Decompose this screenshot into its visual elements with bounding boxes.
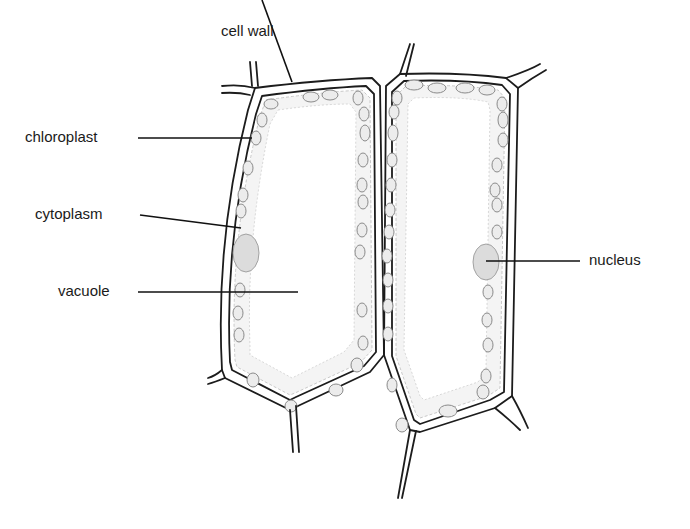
right-nucleus [473, 244, 499, 280]
label-cell-wall: cell wall [221, 22, 274, 40]
label-nucleus: nucleus [589, 251, 641, 269]
right-cell [382, 74, 518, 433]
label-vacuole: vacuole [58, 282, 110, 300]
label-cytoplasm: cytoplasm [35, 205, 103, 223]
left-cell [221, 78, 384, 412]
label-chloroplast: chloroplast [25, 128, 98, 146]
leader-cell-wall [262, 0, 292, 82]
leader-cytoplasm [140, 215, 241, 228]
plant-cell-diagram [0, 0, 690, 529]
left-nucleus [233, 234, 259, 272]
